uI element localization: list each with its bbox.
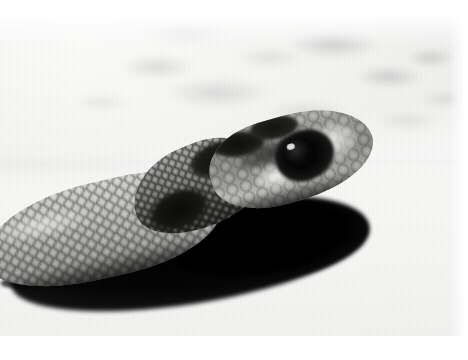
print-grain-overlay [0, 16, 463, 336]
snake-photograph [0, 16, 463, 336]
neck-scale-texture-offset [119, 121, 279, 250]
head-scale-texture [200, 94, 384, 223]
photo-frame [0, 0, 468, 360]
body-specular-highlight [0, 202, 96, 252]
head-crown-bar-first [208, 128, 267, 160]
snake-neck [119, 121, 279, 250]
sand-grain-speckles [0, 195, 463, 336]
cast-shadow-tail [0, 259, 149, 294]
neck-dark-blotch-upper [183, 132, 250, 185]
cast-shadow-body [4, 180, 376, 331]
neck-dark-blotch-lower [143, 180, 214, 238]
head-crown-bar-third [235, 133, 305, 175]
cast-shadow-head [153, 186, 375, 295]
snake-snout-pale-patch [305, 119, 363, 166]
snake-body [0, 157, 230, 305]
snake-eye-mask [267, 120, 342, 190]
head-crown-bar-second [247, 111, 300, 144]
print-right-edge-fade [449, 16, 463, 336]
print-vignette [0, 16, 463, 336]
photo-bottom-margin [0, 336, 468, 360]
snake-head [200, 94, 384, 223]
sand-grain-speckles-secondary [0, 214, 463, 336]
body-scale-texture-offset [0, 157, 230, 305]
body-underside-shading [0, 229, 230, 304]
print-top-edge-fade [0, 16, 463, 45]
neck-scale-texture [119, 121, 279, 250]
sand-midtone-band [0, 163, 463, 201]
background-tonal-band [0, 16, 463, 336]
background-base-layer [0, 16, 463, 336]
head-underside-shading [218, 159, 383, 223]
snake-eye-highlight [286, 142, 296, 151]
snake-labial-pale-patch [254, 159, 302, 193]
background-blur-texture [0, 16, 463, 336]
snake-eye [280, 134, 321, 173]
sand-foreground [0, 163, 463, 336]
body-scale-texture [0, 157, 230, 305]
